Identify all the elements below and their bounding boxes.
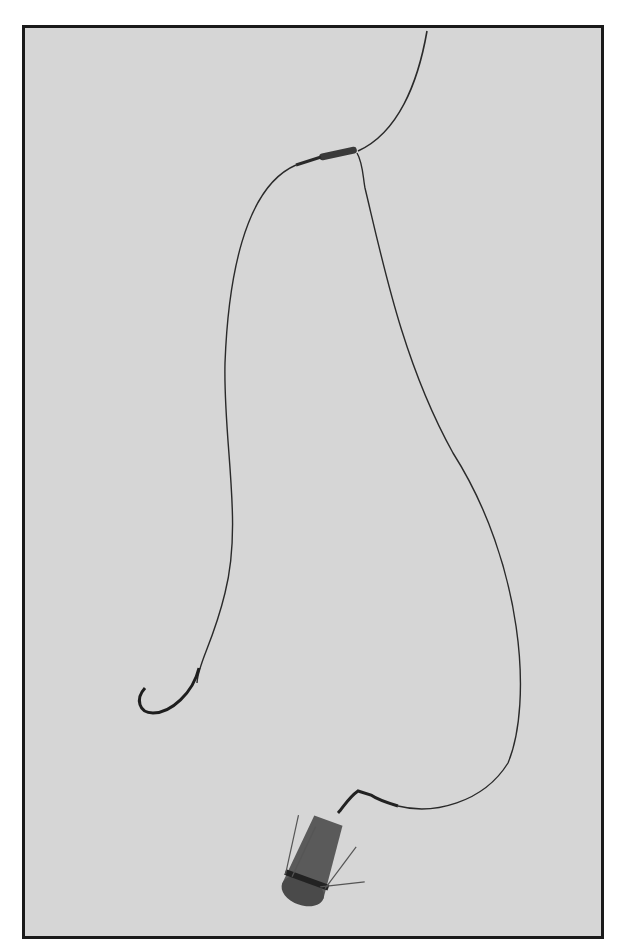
fishing-hook <box>139 668 199 713</box>
main-line <box>358 31 427 151</box>
photo-frame <box>22 25 604 939</box>
barrel-swivel <box>296 146 357 165</box>
spiked-sinker <box>270 810 380 923</box>
hook-leader <box>197 165 296 683</box>
weight-leader <box>357 153 520 809</box>
snap-swivel <box>338 791 398 813</box>
fishing-rig-photo <box>25 28 601 936</box>
